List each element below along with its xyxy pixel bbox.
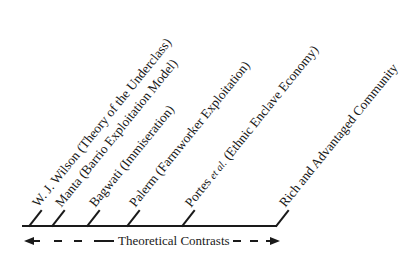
dash bbox=[94, 240, 114, 242]
label-portes-theory: (Ethnic Enclave Economy) bbox=[218, 42, 322, 165]
axis-label: Theoretical Contrasts bbox=[118, 234, 230, 247]
dash bbox=[34, 240, 40, 242]
theoretical-contrasts-diagram: W. J. Wilson (Theory of the Underclass) … bbox=[0, 0, 407, 256]
baseline-axis bbox=[22, 225, 277, 227]
dash bbox=[233, 240, 241, 242]
dash bbox=[54, 240, 62, 242]
arrow-right-icon bbox=[270, 237, 280, 245]
arrow-left-icon bbox=[24, 237, 34, 245]
theoretical-contrasts-axis: Theoretical Contrasts bbox=[24, 234, 280, 250]
dash bbox=[74, 240, 82, 242]
tick-rich bbox=[275, 209, 290, 227]
dash bbox=[250, 240, 258, 242]
